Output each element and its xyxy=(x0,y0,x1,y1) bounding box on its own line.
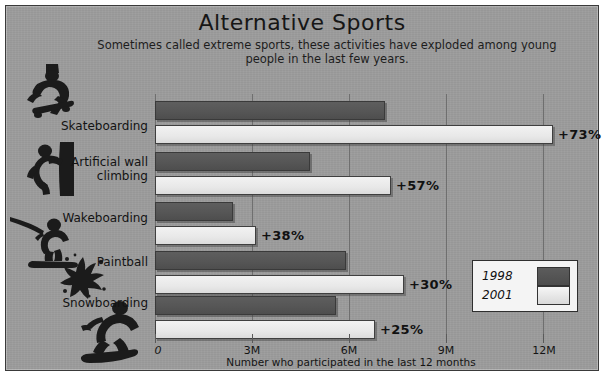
growth-label-skateboarding: +73% xyxy=(558,127,601,142)
category-label-paintball: Paintball xyxy=(36,255,148,269)
tick-mark-6m xyxy=(349,334,350,343)
bar-skateboarding-2001 xyxy=(155,125,553,144)
growth-label-artificial-wall-climbing: +57% xyxy=(396,178,439,193)
bar-snowboarding-2001 xyxy=(155,320,375,339)
chart-subtitle: Sometimes called extreme sports, these a… xyxy=(96,38,558,66)
growth-label-paintball: +30% xyxy=(409,277,452,292)
x-axis-title: Number who participated in the last 12 m… xyxy=(155,356,547,368)
tick-mark-3m xyxy=(252,334,253,343)
chart-title: Alternative Sports xyxy=(6,10,598,35)
bar-artificial-wall-climbing-1998 xyxy=(155,152,310,171)
legend-label-2001: 2001 xyxy=(482,288,513,302)
bar-paintball-2001 xyxy=(155,275,404,294)
bar-skateboarding-1998 xyxy=(155,101,385,120)
skateboarder-icon xyxy=(22,62,84,120)
chart-legend: 1998 2001 xyxy=(472,260,578,312)
growth-label-snowboarding: +25% xyxy=(380,322,423,337)
bar-artificial-wall-climbing-2001 xyxy=(155,176,391,195)
tick-mark-9m xyxy=(446,334,447,343)
legend-swatch-2001 xyxy=(537,286,570,305)
legend-swatch-1998 xyxy=(537,267,570,286)
tick-mark-0 xyxy=(155,334,156,343)
chart-frame: Alternative Sports Sometimes called extr… xyxy=(5,5,599,371)
bar-snowboarding-1998 xyxy=(155,296,336,315)
bar-wakeboarding-1998 xyxy=(155,202,233,221)
category-label-skateboarding: Skateboarding xyxy=(36,119,148,133)
legend-label-1998: 1998 xyxy=(482,269,513,283)
bar-paintball-1998 xyxy=(155,251,346,270)
category-label-snowboarding: Snowboarding xyxy=(28,296,148,310)
category-label-artificial-wall-climbing: Artificial wall climbing xyxy=(36,155,148,183)
category-label-wakeboarding: Wakeboarding xyxy=(36,211,148,225)
bar-wakeboarding-2001 xyxy=(155,226,256,245)
growth-label-wakeboarding: +38% xyxy=(261,228,304,243)
tick-mark-12m xyxy=(543,334,544,343)
